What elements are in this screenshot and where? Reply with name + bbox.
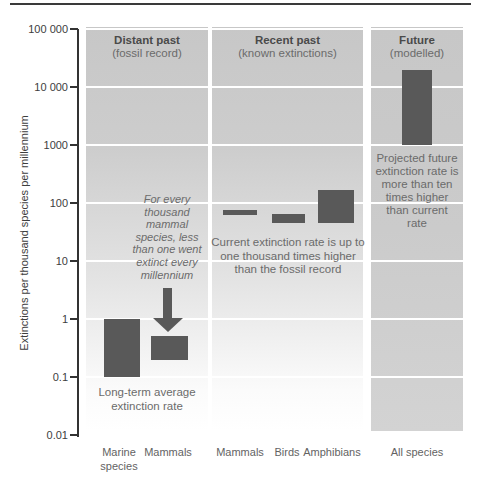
y-tick-label-10 000: 10 000 [0,81,68,93]
x-label-mammals-fossil: Mammals [138,445,198,459]
y-tick-label-10: 10 [0,255,68,267]
x-label-marine-species: Marine species [94,445,144,473]
y-axis-title: Extinctions per thousand species per mil… [18,115,30,350]
annotation-fossil-mammals: For every thousand mammal species, less … [125,193,209,281]
y-tick-label-1: 1 [0,313,68,325]
y-axis-line [77,29,79,437]
y-tick-label-100 000: 100 000 [0,23,68,35]
panel-title-distant-past: Distant past [86,34,208,47]
y-tick-label-0.01: 0.01 [0,429,68,441]
x-label-amphibians: Amphibians [297,445,367,459]
panel-header: Future (modelled) [371,34,463,60]
down-arrow-icon [163,288,172,319]
annotation-projected-rate: Projected future extinction rate is more… [372,152,462,230]
annotation-current-rate: Current extinction rate is up to one tho… [204,236,372,277]
panel-header: Recent past (known extinctions) [212,34,363,60]
y-tick-label-100: 100 [0,197,68,209]
x-label-mammals-recent: Mammals [210,445,270,459]
extinction-rates-figure: Extinctions per thousand species per mil… [0,0,480,490]
panel-recent-past: Recent past (known extinctions) [212,27,363,431]
panel-header: Distant past (fossil record) [86,34,208,60]
panel-title-recent-past: Recent past [212,34,363,47]
gridline-0.01 [86,434,463,436]
top-rule [10,3,471,5]
panel-subtitle-recent-past: (known extinctions) [212,47,363,60]
down-arrow-icon [153,318,183,332]
annotation-long-term-rate: Long-term average extinction rate [97,386,197,413]
panel-subtitle-future: (modelled) [371,47,463,60]
panel-subtitle-distant-past: (fossil record) [86,47,208,60]
x-label-all-species: All species [387,445,447,459]
panel-title-future: Future [371,34,463,47]
y-tick-label-1000: 1000 [0,139,68,151]
y-tick-label-0.1: 0.1 [0,371,68,383]
